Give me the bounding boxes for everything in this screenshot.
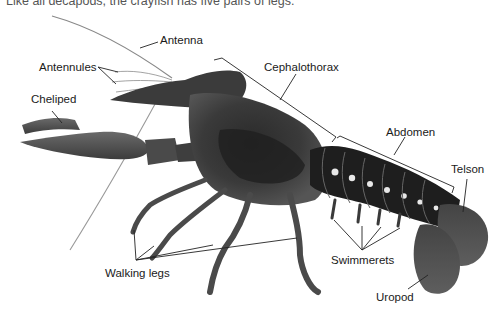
label-cheliped: Cheliped (31, 94, 76, 106)
label-telson: Telson (451, 164, 484, 176)
label-uropod: Uropod (376, 292, 414, 304)
label-antennules: Antennules (39, 62, 97, 74)
cheliped-drawing (20, 118, 212, 165)
label-walking-legs: Walking legs (105, 268, 170, 280)
label-cephalothorax: Cephalothorax (264, 62, 339, 74)
label-antenna: Antenna (160, 35, 203, 47)
crayfish-illustration (0, 0, 503, 317)
label-abdomen: Abdomen (386, 127, 435, 139)
cephalothorax-drawing (189, 93, 328, 205)
label-swimmerets: Swimmerets (331, 255, 394, 267)
